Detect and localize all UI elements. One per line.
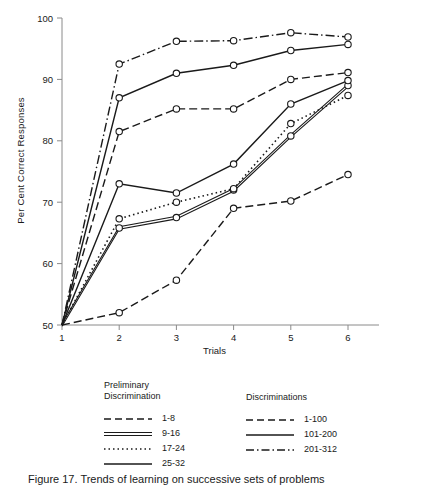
legend-key-solid-icon (246, 429, 298, 441)
series-line (62, 44, 348, 325)
legend-item-101-200: 101-200 (246, 427, 337, 442)
legend-group-preliminary: Preliminary Discrimination 1-8 9-16 (104, 380, 185, 471)
series-9-16 (62, 82, 351, 326)
y-axis-label: Per Cent Correct Responses (15, 81, 26, 241)
data-point-marker (116, 128, 122, 134)
data-point-marker (173, 70, 179, 76)
data-point-marker (116, 95, 122, 101)
legend-label: 101-200 (304, 429, 337, 440)
series-line (62, 73, 348, 325)
x-axis-tick-label: 2 (117, 332, 122, 343)
data-point-marker (116, 310, 122, 316)
y-axis-tick-label: 100 (37, 13, 53, 24)
x-axis-tick-label: 5 (288, 332, 293, 343)
legend-item-25-32: 25-32 (104, 456, 185, 471)
legend-label: 1-100 (304, 414, 327, 425)
legend-label: 25-32 (162, 458, 185, 469)
legend-item-17-24: 17-24 (104, 441, 185, 456)
legend-key-dashdot-icon (246, 444, 298, 456)
legend-label: 1-8 (162, 413, 175, 424)
legend-item-1-8: 1-8 (104, 411, 185, 426)
legend-key-double-icon (104, 428, 156, 440)
legend-label: 201-312 (304, 444, 337, 455)
legend-label: 17-24 (162, 443, 185, 454)
series-line (62, 175, 348, 325)
data-point-marker (345, 92, 351, 98)
data-point-marker (116, 181, 122, 187)
data-point-marker (116, 225, 122, 231)
y-axis-tick-label: 70 (42, 197, 53, 208)
data-point-marker (116, 61, 122, 67)
x-axis-label: Trials (0, 345, 429, 356)
data-point-marker (173, 199, 179, 205)
series-1-100 (62, 69, 351, 325)
chart-plot-area: 5060708090100123456 Per Cent Correct Res… (0, 0, 429, 370)
y-axis-tick-label: 60 (42, 258, 53, 269)
x-axis-tick-label: 4 (231, 332, 236, 343)
legend-item-9-16: 9-16 (104, 426, 185, 441)
x-axis-tick-label: 6 (345, 332, 350, 343)
legend-group-title: Discriminations (246, 392, 337, 403)
legend-label: 9-16 (162, 428, 180, 439)
data-point-marker (173, 106, 179, 112)
data-point-marker (288, 198, 294, 204)
data-point-marker (288, 30, 294, 36)
data-point-marker (230, 161, 236, 167)
y-axis-tick-label: 50 (42, 320, 53, 331)
figure-caption: Figure 17. Trends of learning on success… (28, 473, 418, 485)
legend-key-solid-icon (104, 458, 156, 470)
data-point-marker (230, 205, 236, 211)
legend-key-dotted-icon (104, 443, 156, 455)
data-point-marker (288, 47, 294, 53)
data-point-marker (173, 190, 179, 196)
data-point-marker (288, 120, 294, 126)
data-point-marker (173, 277, 179, 283)
x-axis-tick-label: 1 (59, 332, 64, 343)
series-101-200 (62, 41, 351, 325)
data-point-marker (116, 216, 122, 222)
data-point-marker (288, 101, 294, 107)
legend-key-dashed-icon (246, 414, 298, 426)
data-point-marker (345, 69, 351, 75)
legend-item-1-100: 1-100 (246, 412, 337, 427)
data-point-marker (230, 186, 236, 192)
legend-group-title: Preliminary Discrimination (104, 380, 185, 402)
data-point-marker (173, 38, 179, 44)
data-point-marker (345, 171, 351, 177)
data-point-marker (173, 214, 179, 220)
data-point-marker (288, 133, 294, 139)
legend-key-dashed-icon (104, 413, 156, 425)
data-point-marker (345, 77, 351, 83)
series-1-8 (62, 171, 351, 325)
data-point-marker (230, 106, 236, 112)
legend-group-discriminations: Discriminations 1-100 101-200 201-312 (246, 392, 337, 457)
data-point-marker (230, 62, 236, 68)
chart-legend: Preliminary Discrimination 1-8 9-16 (0, 378, 429, 482)
data-point-marker (345, 34, 351, 40)
data-point-marker (345, 41, 351, 47)
data-point-marker (230, 38, 236, 44)
x-axis-tick-label: 3 (174, 332, 179, 343)
data-point-marker (288, 76, 294, 82)
y-axis-tick-label: 90 (42, 74, 53, 85)
line-chart: 5060708090100123456 (0, 0, 429, 370)
y-axis-tick-label: 80 (42, 135, 53, 146)
legend-item-201-312: 201-312 (246, 442, 337, 457)
series-line (62, 84, 348, 324)
